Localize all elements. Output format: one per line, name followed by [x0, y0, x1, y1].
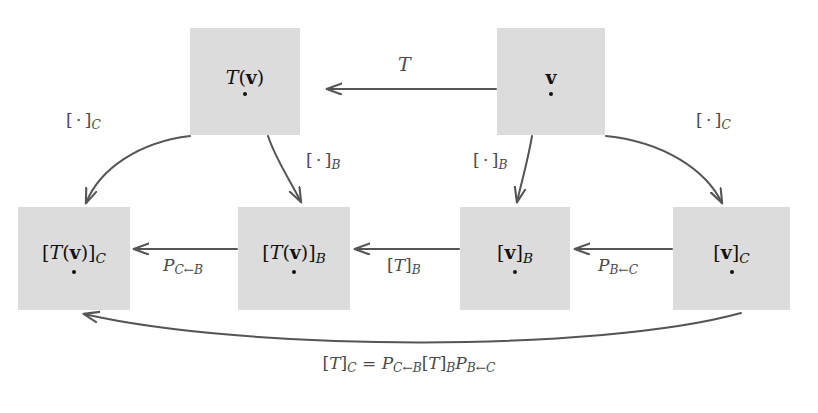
node-Tv: T(v)	[190, 28, 300, 135]
arrow-v-to-vC	[606, 136, 722, 203]
edge-label-bracket-B-right: [ · ]B	[473, 152, 507, 172]
node-vC-label: [v]C	[713, 243, 749, 266]
node-TvB-label: [T(v)]B	[262, 243, 325, 266]
caption-equation: [T]C = PC←B[T]BPB←C	[323, 355, 496, 375]
node-Tv-point	[243, 92, 247, 96]
node-TvB-point	[292, 270, 296, 274]
node-TvC: [T(v)]C	[18, 207, 130, 310]
edge-label-bracket-B-left: [ · ]B	[306, 152, 340, 172]
edge-label-bracket-C-left: [ · ]C	[66, 112, 101, 132]
node-TvC-point	[72, 270, 76, 274]
arrow-vC-to-TvC-composite	[84, 313, 741, 342]
node-vC-point	[730, 270, 734, 274]
node-vB-point	[513, 270, 517, 274]
node-TvB: [T(v)]B	[238, 207, 350, 310]
edge-label-T: T	[398, 55, 411, 74]
diagram-canvas: T(v) v [T(v)]C [T(v)]B [v]B [v]C T [ · ]…	[0, 0, 818, 413]
node-v-point	[549, 92, 553, 96]
arrow-Tv-to-TvC	[86, 136, 190, 203]
node-v-label: v	[545, 68, 556, 87]
edge-label-P-C-from-B: PC←B	[163, 257, 203, 277]
node-vB-label: [v]B	[497, 243, 533, 266]
edge-label-matrix-T-B: [T]B	[387, 257, 421, 277]
node-Tv-label: T(v)	[226, 68, 265, 87]
edge-label-P-B-from-C: PB←C	[598, 257, 638, 277]
node-vC: [v]C	[673, 207, 790, 310]
node-v: v	[497, 28, 605, 135]
node-TvC-label: [T(v)]C	[42, 243, 106, 266]
arrow-Tv-to-TvB	[268, 136, 301, 202]
arrow-v-to-vB	[517, 136, 532, 202]
edge-label-bracket-C-right: [ · ]C	[696, 112, 731, 132]
node-vB: [v]B	[460, 207, 570, 310]
